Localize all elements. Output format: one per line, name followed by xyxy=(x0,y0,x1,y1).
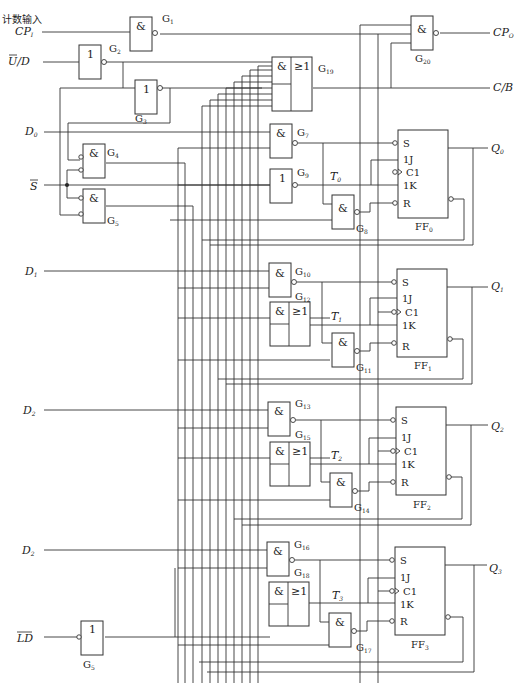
svg-text:G4: G4 xyxy=(107,147,119,159)
svg-text:S: S xyxy=(403,138,410,149)
svg-text:FF0: FF0 xyxy=(415,221,433,233)
svg-text:R: R xyxy=(401,477,409,488)
svg-text:D0: D0 xyxy=(24,125,38,138)
gate-g15: & ≥1 G15 xyxy=(270,429,311,486)
gate-g20: & G20 xyxy=(411,16,439,65)
svg-text:LD: LD xyxy=(16,632,33,645)
gate-g8: & G8 xyxy=(332,195,368,235)
gate-g3: 1 G3 xyxy=(135,80,163,125)
svg-text:CPI: CPI xyxy=(15,25,34,38)
stage-0: & G7 1 G9 & G8 T0 xyxy=(202,124,488,245)
gate-g11: & G11 xyxy=(332,333,372,374)
svg-text:1: 1 xyxy=(143,83,150,96)
svg-text:G5: G5 xyxy=(107,215,119,227)
svg-text:G7: G7 xyxy=(297,127,309,139)
svg-text:G16: G16 xyxy=(294,539,310,551)
svg-text:G17: G17 xyxy=(356,642,372,654)
svg-text:FF1: FF1 xyxy=(414,360,432,372)
svg-text:Q3: Q3 xyxy=(489,562,502,575)
gate-g5-ld: 1 G5 xyxy=(77,621,103,671)
svg-text:&: & xyxy=(275,445,285,458)
input-cp-label: 计数输入 CPI xyxy=(2,13,42,38)
gate-g12: & ≥1 G12 xyxy=(270,291,311,346)
svg-text:&: & xyxy=(275,305,285,318)
svg-text:1K: 1K xyxy=(402,320,416,331)
svg-text:Q2: Q2 xyxy=(491,420,504,433)
svg-text:&: & xyxy=(274,405,284,418)
svg-text:C1: C1 xyxy=(403,586,417,597)
svg-text:G12: G12 xyxy=(295,291,311,303)
svg-text:&: & xyxy=(274,585,284,598)
svg-text:Q1: Q1 xyxy=(491,280,504,293)
svg-text:&: & xyxy=(335,616,345,629)
output-q0-label: Q0 xyxy=(491,142,504,155)
svg-text:G1: G1 xyxy=(162,13,174,25)
svg-text:T3: T3 xyxy=(332,589,343,602)
svg-text:C1: C1 xyxy=(406,167,420,178)
gate-g2: 1 G2 xyxy=(79,43,121,79)
svg-text:U/D: U/D xyxy=(8,55,30,68)
gate-g4: & G4 xyxy=(79,144,119,178)
svg-text:&: & xyxy=(336,476,346,489)
stage-2: & G13 & ≥1 G15 & G14 T2 xyxy=(234,398,488,525)
svg-text:&: & xyxy=(89,192,99,205)
svg-text:&: & xyxy=(277,60,287,73)
svg-text:G2: G2 xyxy=(109,43,121,55)
svg-text:1: 1 xyxy=(279,172,286,185)
input-d3-label: D2 xyxy=(21,544,35,557)
svg-text:1: 1 xyxy=(89,623,96,636)
input-d1-label: D1 xyxy=(24,265,38,278)
flipflop-ff0: S 1J C1 1K R FF0 xyxy=(393,130,454,233)
svg-text:G8: G8 xyxy=(356,223,368,235)
svg-text:1K: 1K xyxy=(401,459,415,470)
gate-g7: & G7 xyxy=(270,124,309,158)
svg-text:1J: 1J xyxy=(400,572,410,583)
input-s-label: S xyxy=(30,180,38,193)
svg-text:G11: G11 xyxy=(356,362,372,374)
svg-text:D2: D2 xyxy=(22,404,36,417)
gate-g1: & G1 xyxy=(130,13,174,51)
svg-text:C1: C1 xyxy=(404,446,418,457)
svg-text:D2: D2 xyxy=(21,544,35,557)
input-d0-label: D0 xyxy=(24,125,38,138)
svg-text:≥1: ≥1 xyxy=(291,585,307,598)
svg-text:G9: G9 xyxy=(297,167,309,179)
svg-text:FF3: FF3 xyxy=(411,639,429,651)
svg-text:≥1: ≥1 xyxy=(294,60,310,73)
svg-text:&: & xyxy=(276,127,286,140)
svg-text:≥1: ≥1 xyxy=(292,305,308,318)
svg-text:1J: 1J xyxy=(403,154,413,165)
svg-text:R: R xyxy=(400,616,408,627)
svg-text:计数输入: 计数输入 xyxy=(2,13,42,25)
svg-text:&: & xyxy=(417,23,427,36)
gate-g14: & G14 xyxy=(330,473,370,514)
gate-g17: & G17 xyxy=(329,613,372,654)
svg-text:G18: G18 xyxy=(294,567,310,579)
svg-text:G14: G14 xyxy=(354,502,370,514)
svg-text:1: 1 xyxy=(87,48,94,61)
svg-text:&: & xyxy=(89,147,99,160)
svg-text:S: S xyxy=(400,555,407,566)
svg-text:C/B: C/B xyxy=(493,81,513,94)
gate-g19: & ≥1 G19 xyxy=(272,57,334,111)
output-q1-label: Q1 xyxy=(491,280,504,293)
svg-text:FF2: FF2 xyxy=(413,499,431,511)
svg-text:G19: G19 xyxy=(318,63,334,75)
svg-text:G5: G5 xyxy=(83,659,95,671)
svg-text:T2: T2 xyxy=(331,449,342,462)
gate-g10: & G10 xyxy=(269,263,311,297)
input-d2-label: D2 xyxy=(22,404,36,417)
svg-text:S: S xyxy=(402,277,409,288)
output-q2-label: Q2 xyxy=(491,420,504,433)
counter-logic-diagram: 计数输入 CPI U/D D0 S D1 D2 D2 LD CPO C/B Q0… xyxy=(0,0,515,683)
input-ld-label: LD xyxy=(16,632,33,645)
svg-text:1K: 1K xyxy=(400,599,414,610)
stage-1: & G10 & ≥1 G12 & G11 T1 xyxy=(218,263,488,384)
stage-3: & G16 & ≥1 G18 & G17 T3 xyxy=(267,539,487,672)
svg-text:R: R xyxy=(403,198,411,209)
svg-text:S: S xyxy=(30,180,38,193)
flipflop-ff2: S 1J C1 1K R FF2 xyxy=(391,407,452,511)
svg-text:&: & xyxy=(275,267,285,280)
svg-text:C1: C1 xyxy=(405,307,419,318)
svg-text:T1: T1 xyxy=(331,310,342,323)
